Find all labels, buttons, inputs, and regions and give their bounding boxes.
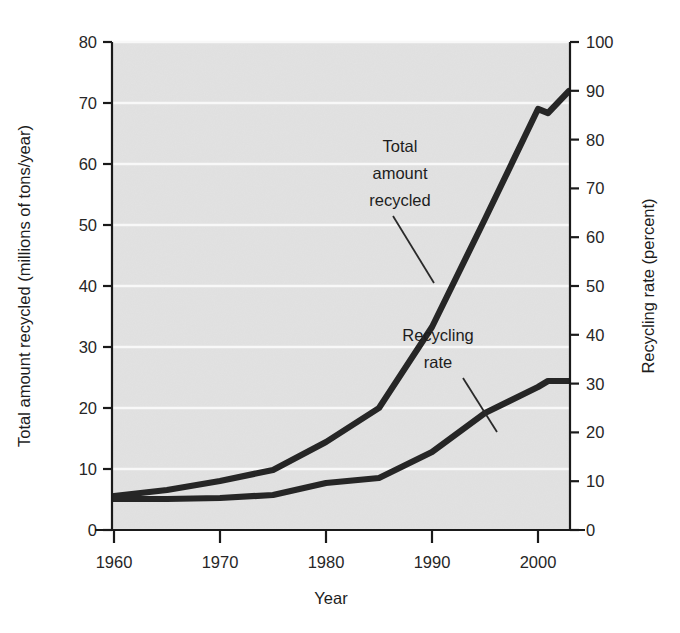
right-tick-label: 90 (586, 82, 604, 100)
right-tick-label: 40 (586, 326, 604, 344)
left-tick-label: 60 (79, 155, 97, 173)
bottom-tick-label: 1970 (202, 553, 239, 571)
bottom-axis-title: Year (314, 589, 348, 607)
right-tick-label: 0 (586, 521, 595, 539)
left-tick-label: 10 (79, 460, 97, 478)
bottom-tick-label: 1960 (96, 553, 133, 571)
left-tick-label: 70 (79, 94, 97, 112)
left-tick-label: 40 (79, 277, 97, 295)
plot-area: Total amount recycled Recycling rate (112, 42, 570, 530)
recycling-chart: Total amount recycled Recycling rate 80 … (0, 0, 680, 633)
right-tick-label: 10 (586, 472, 604, 490)
annotation-rate-line-1: Recycling (402, 326, 474, 344)
annotation-total-line-2: amount (372, 164, 427, 182)
left-axis-tick-labels: 80 70 60 50 40 30 20 10 0 (79, 33, 97, 539)
right-tick-label: 50 (586, 277, 604, 295)
annotation-total-line-1: Total (383, 137, 418, 155)
bottom-tick-label: 1980 (308, 553, 345, 571)
right-axis-title: Recycling rate (percent) (639, 198, 657, 373)
left-tick-label: 20 (79, 399, 97, 417)
right-tick-label: 80 (586, 131, 604, 149)
right-tick-label: 20 (586, 423, 604, 441)
bottom-tick-label: 2000 (520, 553, 557, 571)
left-axis-title: Total amount recycled (millions of tons/… (15, 125, 33, 447)
right-tick-label: 100 (586, 33, 614, 51)
right-tick-label: 70 (586, 179, 604, 197)
annotation-total-line-3: recycled (369, 191, 430, 209)
right-tick-label: 60 (586, 228, 604, 246)
left-tick-label: 30 (79, 338, 97, 356)
left-tick-label: 50 (79, 216, 97, 234)
bottom-tick-label: 1990 (414, 553, 451, 571)
right-tick-label: 30 (586, 375, 604, 393)
annotation-rate-line-2: rate (424, 353, 452, 371)
left-tick-label: 80 (79, 33, 97, 51)
